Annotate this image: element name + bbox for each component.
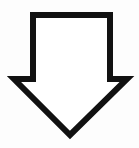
arrow-canvas (0, 0, 139, 148)
down-arrow-icon (0, 0, 139, 148)
down-arrow-shape (14, 15, 127, 135)
